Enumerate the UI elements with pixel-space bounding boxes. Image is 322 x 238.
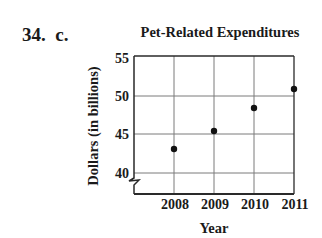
y-tick-45: 45	[115, 127, 129, 142]
data-point-2011	[291, 86, 297, 92]
y-axis-label: Dollars (in billions)	[85, 66, 102, 185]
x-tick-2009: 2009	[201, 197, 229, 212]
y-tick-40: 40	[115, 166, 129, 181]
y-tick-55: 55	[115, 51, 129, 66]
y-tick-50: 50	[115, 89, 129, 104]
x-tick-2010: 2010	[241, 197, 269, 212]
x-tick-2008: 2008	[161, 197, 189, 212]
data-point-2010	[251, 105, 257, 111]
data-point-2009	[211, 128, 217, 134]
x-tick-2011: 2011	[281, 197, 308, 212]
grid	[134, 56, 294, 194]
x-axis-label: Year	[200, 220, 230, 236]
data-point-2008	[171, 146, 177, 152]
scatter-chart: 55 50 45 40 2008 2009 2010 2011 Year Dol…	[0, 0, 322, 238]
